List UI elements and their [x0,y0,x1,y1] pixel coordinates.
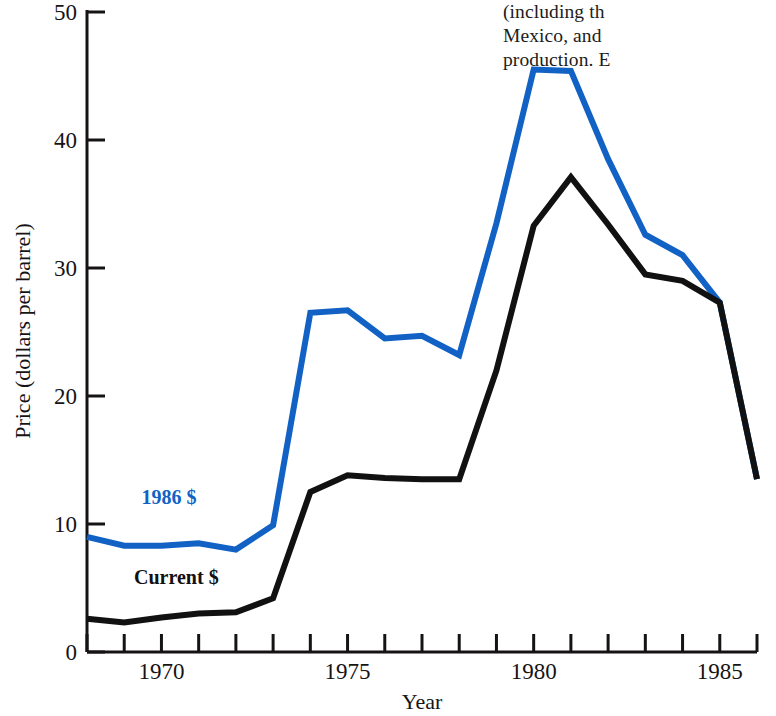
y-axis-ticks [87,12,105,652]
y-axis-tick-label: 10 [54,512,77,537]
x-axis-tick-label: 1975 [325,659,371,684]
chart-canvas: 01020304050 1970197519801985 1986 $Curre… [0,0,776,716]
x-axis-tick-label: 1970 [138,659,184,684]
x-axis-title: Year [402,689,443,714]
x-axis-tick-label: 1985 [697,659,743,684]
chart-series-labels: 1986 $Current $ [134,486,219,589]
x-axis-tick-label: 1980 [511,659,557,684]
y-axis-tick-label: 50 [54,0,77,25]
y-axis-tick-labels: 01020304050 [54,0,77,665]
x-axis-ticks [87,634,757,652]
y-axis-tick-label: 30 [54,256,77,281]
y-axis-tick-label: 20 [54,384,77,409]
y-axis-tick-label: 40 [54,128,77,153]
chart-series-lines [87,70,757,623]
y-axis-title: Price (dollars per barrel) [10,223,35,439]
y-axis-tick-label: 0 [66,640,78,665]
series-label: Current $ [134,566,219,588]
x-axis-tick-labels: 1970197519801985 [138,659,742,684]
series-label: 1986 $ [141,486,196,508]
oil-price-line-chart: 01020304050 1970197519801985 1986 $Curre… [0,0,776,716]
